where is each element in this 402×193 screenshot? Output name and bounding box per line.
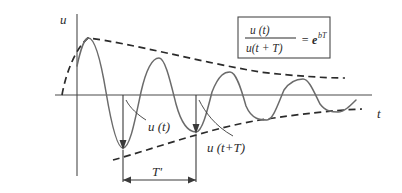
formula-box: u (t) u(t + T) = e bT	[238, 17, 330, 58]
formula-numerator: u (t)	[250, 24, 270, 37]
damped-oscillation-figure: u t u (t) u (t+T) T' u (t)	[0, 0, 402, 193]
formula-exponent: bT	[318, 31, 327, 40]
formula-equals-sign: =	[301, 33, 309, 47]
period-label: T'	[152, 164, 162, 179]
formula-denominator: u(t + T)	[246, 42, 283, 55]
figure-background	[0, 0, 402, 193]
curve-label-u-t: u (t)	[148, 119, 170, 134]
y-axis-label: u	[60, 12, 67, 27]
curve-label-u-t-plus-T: u (t+T)	[207, 140, 245, 155]
x-axis-label: t	[377, 106, 381, 121]
